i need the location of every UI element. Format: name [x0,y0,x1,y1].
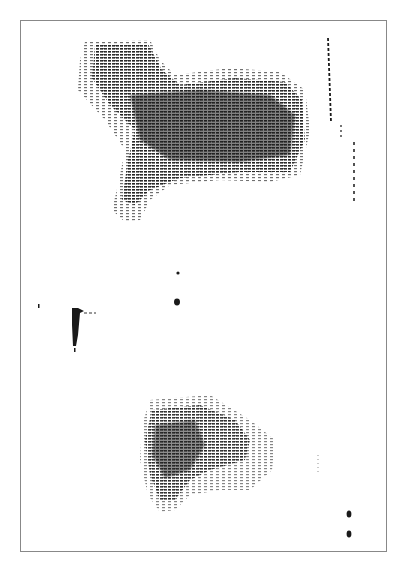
right-edge-marks [328,38,354,205]
lower-activity-region [140,395,275,512]
left-bar-mark [72,308,96,352]
upper-activity-region [78,40,310,222]
scan-artwork [0,0,407,573]
